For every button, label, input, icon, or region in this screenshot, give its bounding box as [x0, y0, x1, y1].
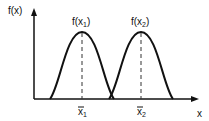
mean-label-2: x2	[137, 106, 146, 118]
x-axis-label: x	[197, 108, 202, 119]
peak-label-1: f(x1)	[72, 16, 90, 28]
y-axis-arrow-icon	[31, 8, 37, 16]
mean-label-1: x1	[78, 106, 87, 118]
peak-label-2: f(x2)	[131, 16, 149, 28]
y-axis-label: f(x)	[8, 5, 22, 16]
chart-canvas: f(x) x f(x1) f(x2) x1 x2	[0, 0, 209, 121]
x-axis-arrow-icon	[191, 96, 199, 102]
